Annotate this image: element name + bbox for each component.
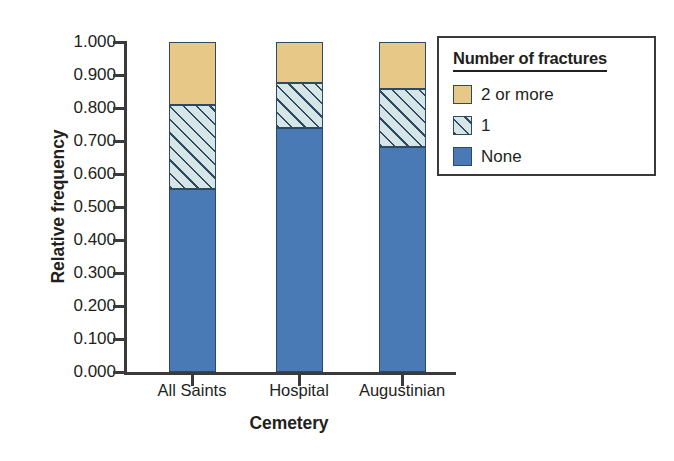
y-axis-tick-mark [113,173,124,176]
y-axis-line [124,41,127,373]
x-axis-tick-label: Augustinian [359,381,445,400]
stacked-bar-chart: Relative frequency 1.0000.9000.8000.7000… [0,0,674,461]
plot-area [124,42,454,372]
bar-segment-2-or-more[interactable] [276,42,323,83]
legend-swatch-icon [453,147,472,166]
legend-item-label: None [481,145,522,168]
bar-segment-2-or-more[interactable] [379,42,426,89]
bar-segment-1[interactable] [379,89,426,147]
bar-hospital[interactable] [276,42,323,372]
y-axis-tick-mark [113,305,124,308]
y-axis-tick-mark [113,239,124,242]
y-axis-tick-label: 0.800 [42,99,116,116]
y-axis-tick-mark [113,74,124,77]
x-axis-tick-label: All Saints [158,381,227,400]
legend-item-label: 1 [481,114,490,137]
legend-swatch-icon [453,116,472,135]
y-axis-tick-label: 0.600 [42,165,116,182]
x-axis-title: Cemetery [124,413,454,434]
legend-title: Number of fractures [453,49,607,72]
y-axis-tick-label: 0.100 [42,330,116,347]
y-axis-tick-mark [113,140,124,143]
bar-segment-none[interactable] [379,147,426,372]
bar-all-saints[interactable] [169,42,216,372]
legend-item-label: 2 or more [481,83,554,106]
y-axis-tick-label: 0.400 [42,231,116,248]
y-axis-tick-label: 0.000 [42,363,116,380]
y-axis-tick-mark [113,272,124,275]
y-axis-tick-label: 0.200 [42,297,116,314]
y-axis-tick-mark [113,371,124,374]
bar-segment-1[interactable] [276,83,323,128]
bar-segment-none[interactable] [276,128,323,372]
x-axis-tick-label: Hospital [269,381,329,400]
y-axis-tick-label: 0.500 [42,198,116,215]
legend: Number of fractures 2 or more1None [437,36,656,176]
y-axis-tick-mark [113,206,124,209]
x-axis-line [124,372,456,375]
y-axis-tick-label: 0.300 [42,264,116,281]
y-axis-tick-mark [113,41,124,44]
y-axis-tick-mark [113,338,124,341]
bar-augustinian[interactable] [379,42,426,372]
bar-segment-none[interactable] [169,189,216,372]
y-axis-tick-label: 0.700 [42,132,116,149]
y-axis-tick-label: 0.900 [42,66,116,83]
legend-swatch-icon [453,85,472,104]
bar-segment-1[interactable] [169,105,216,189]
y-axis-tick-label: 1.000 [42,33,116,50]
y-axis-tick-labels: 1.0000.9000.8000.7000.6000.5000.4000.300… [38,0,116,461]
y-axis-tick-mark [113,107,124,110]
bar-segment-2-or-more[interactable] [169,42,216,105]
